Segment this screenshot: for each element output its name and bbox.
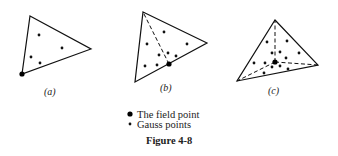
triangle-b (135, 12, 207, 82)
field-point-b (166, 61, 171, 66)
triangle-a (22, 16, 91, 74)
gauss-point (264, 62, 267, 65)
gauss-point (266, 41, 269, 44)
gauss-point (158, 54, 161, 57)
gauss-point (279, 65, 282, 68)
legend-gauss-point-marker (129, 123, 132, 126)
panel-label-b: (b) (160, 82, 172, 94)
gauss-point (271, 66, 274, 69)
gauss-point (163, 31, 166, 34)
panels-group (19, 12, 318, 82)
legend-gauss-point-label: Gauss points (137, 119, 191, 130)
gauss-point (286, 40, 289, 43)
gauss-point (271, 52, 274, 55)
legend: The field point Gauss points (127, 109, 199, 130)
gauss-point (146, 43, 149, 46)
gauss-point (279, 51, 282, 54)
gauss-point (287, 68, 290, 71)
gauss-point (175, 55, 178, 58)
subdivision-line-c-1 (275, 62, 318, 65)
figure-canvas: (a) (b) (c) The field point Gauss points… (0, 0, 338, 156)
gauss-point (38, 34, 41, 37)
gauss-point (39, 62, 42, 65)
panel-label-c: (c) (268, 85, 280, 97)
legend-field-point-marker (127, 111, 132, 116)
gauss-point (253, 62, 256, 65)
gauss-point (144, 65, 147, 68)
gauss-point (285, 57, 288, 60)
subdivision-line-b-0 (143, 12, 169, 64)
panel-c (237, 20, 318, 81)
gauss-point (298, 52, 301, 55)
field-point-a (19, 71, 24, 76)
gauss-point (263, 72, 266, 75)
gauss-point (156, 64, 159, 67)
gauss-point (167, 52, 170, 55)
panel-label-a: (a) (44, 86, 56, 98)
gauss-point (186, 43, 189, 46)
panel-b (135, 12, 207, 82)
gauss-point (30, 56, 33, 59)
triangle-c (237, 20, 318, 81)
gauss-point (61, 47, 64, 50)
figure-caption: Figure 4-8 (146, 135, 192, 146)
panel-a (19, 16, 91, 77)
field-point-c (272, 59, 277, 64)
